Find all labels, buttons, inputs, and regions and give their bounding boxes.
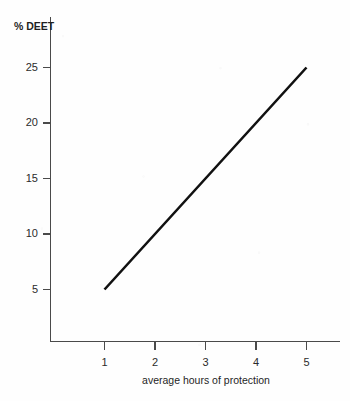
x-tick-label-2: 2 bbox=[152, 356, 158, 368]
x-axis-title: average hours of protection bbox=[142, 374, 270, 386]
x-tick-marks bbox=[105, 342, 307, 351]
data-series-line bbox=[105, 68, 307, 290]
chart-page: 25 20 15 10 5 1 2 3 4 5 % DEET average h… bbox=[0, 0, 350, 401]
x-tick-label-4: 4 bbox=[253, 356, 259, 368]
x-tick-label-3: 3 bbox=[202, 356, 208, 368]
y-axis-title: % DEET bbox=[14, 20, 55, 32]
y-tick-labels: 25 20 15 10 5 bbox=[26, 61, 38, 295]
line-chart: 25 20 15 10 5 1 2 3 4 5 % DEET average h… bbox=[0, 0, 350, 401]
x-tick-label-5: 5 bbox=[303, 356, 309, 368]
y-tick-label-20: 20 bbox=[26, 116, 38, 128]
y-tick-label-15: 15 bbox=[26, 172, 38, 184]
y-tick-label-25: 25 bbox=[26, 61, 38, 73]
y-tick-label-5: 5 bbox=[32, 283, 38, 295]
y-tick-marks bbox=[43, 68, 51, 290]
x-tick-label-1: 1 bbox=[101, 356, 107, 368]
y-tick-label-10: 10 bbox=[26, 227, 38, 239]
x-tick-labels: 1 2 3 4 5 bbox=[101, 356, 309, 368]
